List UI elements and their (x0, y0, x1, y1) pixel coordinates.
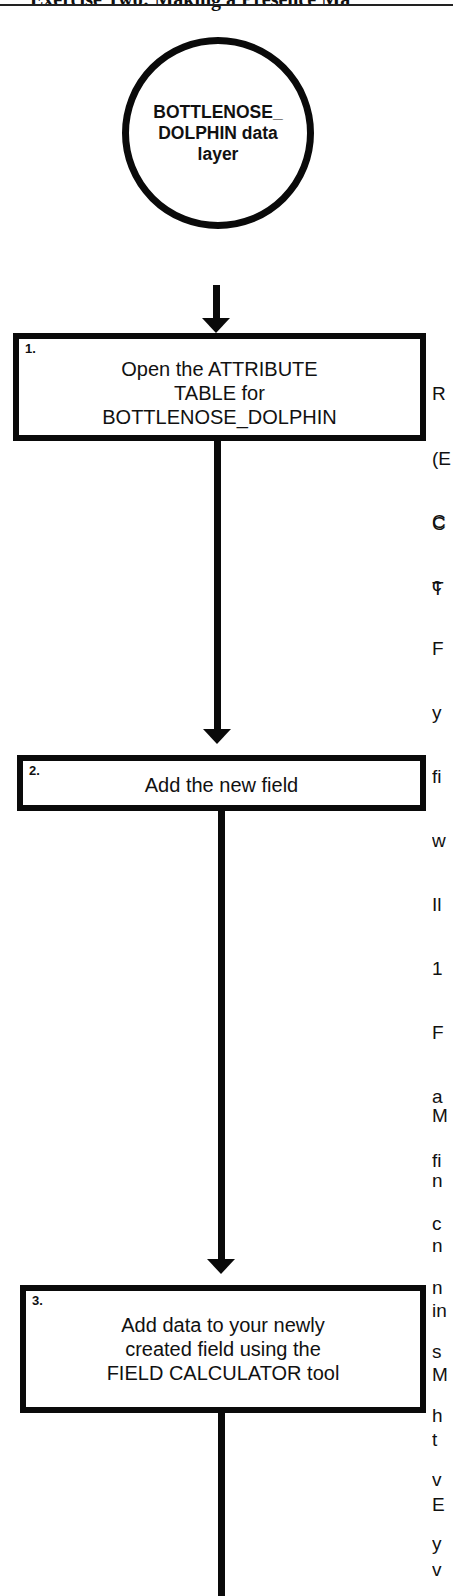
step-1-line-2: TABLE for (19, 381, 420, 405)
step-3-number: 3. (32, 1293, 43, 1308)
step-1-box: 1. Open the ATTRIBUTE TABLE for BOTTLENO… (13, 333, 426, 441)
side-note-line: w (432, 830, 453, 851)
step-1-line-3: BOTTLENOSE_DOLPHIN (19, 405, 420, 429)
side-note-line: y (432, 702, 453, 723)
step-1-number: 1. (25, 341, 36, 356)
side-note-line: fi (432, 766, 453, 787)
step-3-line-3: FIELD CALCULATOR tool (26, 1361, 420, 1385)
arrow-down-icon (207, 1259, 235, 1274)
side-note-line: E (432, 1494, 453, 1516)
side-note-line: n (432, 1170, 453, 1192)
side-notes-block-3: M n n in M t E v C n t c a v C C I (432, 1062, 453, 1596)
side-note-line: M (432, 1364, 453, 1386)
side-note-line: c (432, 574, 453, 595)
arrow-down-icon (202, 318, 230, 333)
connector-line-4 (218, 1413, 225, 1596)
side-note-line: n (432, 1235, 453, 1257)
connector-line-2 (214, 441, 221, 731)
step-3-line-2: created field using the (26, 1337, 420, 1361)
side-note-line: R (432, 383, 453, 405)
start-node-line-1: BOTTLENOSE_ (143, 102, 293, 123)
step-3-line-1: Add data to your newly (26, 1313, 420, 1337)
side-note-line: F (432, 1022, 453, 1043)
header-underline (0, 4, 453, 6)
connector-line-3 (218, 811, 225, 1261)
step-2-label: Add the new field (23, 773, 420, 797)
side-note-line: 1 (432, 958, 453, 979)
start-node-circle: BOTTLENOSE_ DOLPHIN data layer (122, 37, 314, 229)
arrow-down-icon (203, 729, 231, 744)
step-2-line-1: Add the new field (23, 773, 420, 797)
side-note-line: Il (432, 894, 453, 915)
side-note-line: C (432, 511, 453, 532)
step-3-box: 3. Add data to your newly created field … (20, 1285, 426, 1413)
side-note-line: (E (432, 448, 453, 470)
step-1-line-1: Open the ATTRIBUTE (19, 357, 420, 381)
side-note-line: in (432, 1300, 453, 1322)
start-node-line-2: DOLPHIN data (143, 123, 293, 144)
step-3-label: Add data to your newly created field usi… (26, 1313, 420, 1385)
side-note-line: M (432, 1105, 453, 1127)
side-note-line: v (432, 1559, 453, 1581)
side-note-line: t (432, 1429, 453, 1451)
start-node-line-3: layer (143, 144, 293, 165)
side-note-line: F (432, 638, 453, 659)
step-2-box: 2. Add the new field (17, 755, 426, 811)
connector-line-1 (213, 285, 220, 320)
step-1-label: Open the ATTRIBUTE TABLE for BOTTLENOSE_… (19, 357, 420, 429)
start-node-label: BOTTLENOSE_ DOLPHIN data layer (143, 102, 293, 165)
